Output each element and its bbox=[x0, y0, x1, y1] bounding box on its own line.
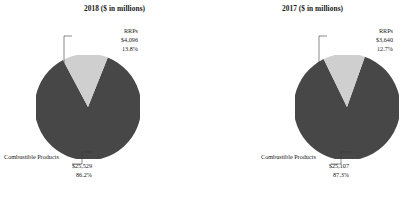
pie-chart-2017 bbox=[295, 55, 399, 159]
callout-rrps-name-2018: RRPs bbox=[76, 26, 138, 35]
callout-combustible-2017: Combustible Products $25,107 87.3% bbox=[261, 152, 349, 180]
pie-svg-2017 bbox=[295, 55, 399, 159]
chart-panel-2018: 2018 ($ in millions) RRPs $4,096 13.8% C… bbox=[0, 0, 203, 200]
callout-rrps-value-2017: $3,640 bbox=[331, 35, 393, 44]
pie-chart-figure: 2018 ($ in millions) RRPs $4,096 13.8% C… bbox=[0, 0, 406, 200]
callout-rrps-2017: RRPs $3,640 12.7% bbox=[331, 26, 393, 54]
callout-combustible-2018: Combustible Products $25,529 86.2% bbox=[4, 152, 92, 180]
callout-rrps-2018: RRPs $4,096 13.8% bbox=[76, 26, 138, 54]
chart-panel-2017: 2017 ($ in millions) RRPs $3,640 12.7% C… bbox=[203, 0, 406, 200]
callout-combustible-name-2017: Combustible Products bbox=[261, 152, 349, 161]
callout-rrps-percent-2018: 13.8% bbox=[76, 44, 138, 53]
callout-combustible-name-2018: Combustible Products bbox=[4, 152, 92, 161]
callout-rrps-percent-2017: 12.7% bbox=[331, 44, 393, 53]
pie-chart-2018 bbox=[36, 55, 140, 159]
callout-combustible-percent-2017: 87.3% bbox=[261, 170, 349, 179]
chart-title-2018: 2018 ($ in millions) bbox=[13, 4, 216, 13]
callout-combustible-value-2017: $25,107 bbox=[261, 161, 349, 170]
pie-svg-2018 bbox=[36, 55, 140, 159]
chart-title-2017: 2017 ($ in millions) bbox=[211, 4, 406, 13]
callout-rrps-value-2018: $4,096 bbox=[76, 35, 138, 44]
callout-combustible-percent-2018: 86.2% bbox=[4, 170, 92, 179]
callout-rrps-name-2017: RRPs bbox=[331, 26, 393, 35]
callout-combustible-value-2018: $25,529 bbox=[4, 161, 92, 170]
